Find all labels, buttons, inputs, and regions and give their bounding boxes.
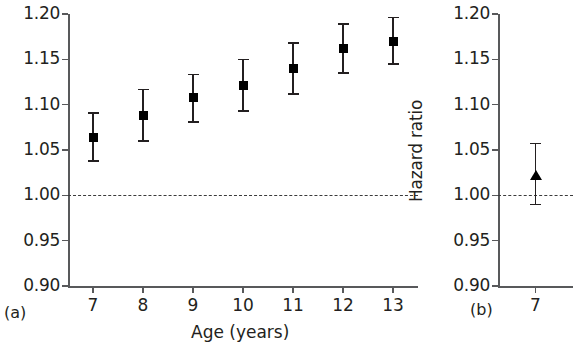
error-bar-cap-lower [388, 63, 399, 65]
y-axis-tick [492, 285, 498, 287]
y-axis-tick-label: 1.05 [436, 139, 490, 159]
x-axis-tick-label: 7 [516, 295, 556, 315]
error-bar-cap-upper [388, 17, 399, 19]
panel-a-tag: (a) [4, 303, 26, 322]
x-axis-tick [142, 287, 144, 293]
x-axis-tick [242, 287, 244, 293]
y-axis-tick [62, 149, 68, 151]
y-axis-tick-label: 1.00 [436, 184, 490, 204]
x-axis-tick-label: 9 [173, 295, 213, 315]
x-axis-tick-label: 13 [373, 295, 413, 315]
x-axis-tick-label: 10 [223, 295, 263, 315]
y-axis-line [68, 14, 70, 287]
y-axis-tick-label: 1.15 [6, 48, 60, 68]
panel-b-y-axis-label: Hazard ratio [406, 100, 426, 202]
y-axis-tick [62, 240, 68, 242]
x-axis-tick [392, 287, 394, 293]
error-bar-cap-upper [188, 74, 199, 76]
panel-b-tag: (b) [470, 300, 493, 319]
error-bar-cap-upper [88, 112, 99, 114]
y-axis-tick [62, 13, 68, 15]
y-axis-tick-label: 1.05 [6, 139, 60, 159]
error-bar-cap-upper [530, 143, 541, 145]
y-axis-tick-label: 1.00 [6, 184, 60, 204]
y-axis-tick-label: 1.15 [436, 48, 490, 68]
error-bar-cap-upper [338, 23, 349, 25]
y-axis-tick [492, 104, 498, 106]
data-point-square-marker [89, 133, 98, 142]
y-axis-tick [62, 285, 68, 287]
y-axis-tick-label: 0.90 [436, 275, 490, 295]
panel-a: Hazard ratio Age (years) (a) 1.201.151.1… [0, 0, 425, 331]
error-bar-cap-lower [288, 93, 299, 95]
panel-a-x-axis-label: Age (years) [191, 322, 289, 342]
error-bar-cap-upper [138, 89, 149, 91]
data-point-square-marker [339, 44, 348, 53]
x-axis-tick [292, 287, 294, 293]
x-axis-tick [192, 287, 194, 293]
data-point-square-marker [289, 64, 298, 73]
y-axis-tick [492, 149, 498, 151]
error-bar-cap-lower [530, 204, 541, 206]
data-point-square-marker [139, 111, 148, 120]
y-axis-tick-label: 0.95 [436, 230, 490, 250]
y-axis-tick-label: 1.10 [436, 94, 490, 114]
x-axis-tick-label: 11 [273, 295, 313, 315]
data-point-square-marker [389, 37, 398, 46]
y-axis-tick-label: 0.90 [6, 275, 60, 295]
y-axis-tick-label: 1.20 [436, 3, 490, 23]
x-axis-tick [342, 287, 344, 293]
x-axis-tick-label: 7 [73, 295, 113, 315]
y-axis-tick-label: 1.20 [6, 3, 60, 23]
x-axis-tick-label: 12 [323, 295, 363, 315]
y-axis-tick-label: 0.95 [6, 230, 60, 250]
y-axis-tick [62, 104, 68, 106]
y-axis-line [498, 14, 500, 287]
error-bar-cap-lower [188, 121, 199, 123]
y-axis-tick [492, 13, 498, 15]
data-point-triangle-marker [530, 170, 542, 180]
x-axis-tick [535, 287, 537, 293]
error-bar-cap-upper [238, 59, 249, 61]
error-bar-cap-lower [238, 110, 249, 112]
error-bar-cap-lower [338, 72, 349, 74]
y-axis-tick-label: 1.10 [6, 94, 60, 114]
error-bar-cap-lower [138, 140, 149, 142]
reference-line [68, 195, 418, 196]
y-axis-tick [62, 59, 68, 61]
error-bar-cap-upper [288, 42, 299, 44]
x-axis-tick [92, 287, 94, 293]
data-point-square-marker [239, 81, 248, 90]
y-axis-tick [492, 240, 498, 242]
x-axis-tick-label: 8 [123, 295, 163, 315]
error-bar-cap-lower [88, 160, 99, 162]
panel-b: Hazard ratio (b) 1.201.151.101.051.000.9… [425, 0, 573, 331]
data-point-square-marker [189, 93, 198, 102]
y-axis-tick [492, 59, 498, 61]
